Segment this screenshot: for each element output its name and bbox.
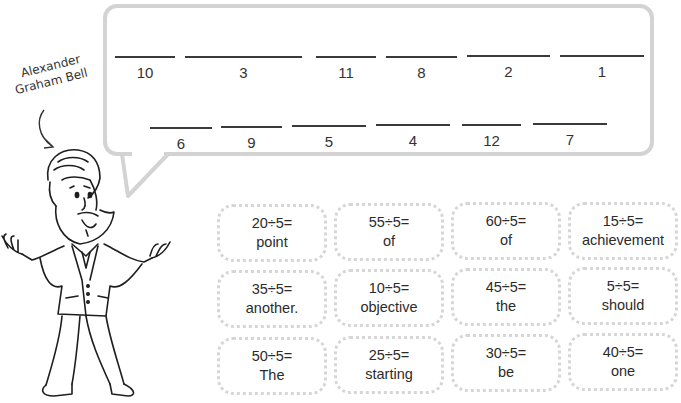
answer-blank[interactable]: 5: [292, 125, 366, 150]
card-equation: 40÷5=: [603, 343, 644, 362]
blank-number: 3: [185, 64, 302, 81]
equation-card[interactable]: 55÷5=of: [334, 203, 444, 261]
answer-blank[interactable]: 8: [386, 56, 457, 81]
card-word: achievement: [582, 231, 664, 250]
answer-blank[interactable]: 2: [467, 55, 550, 80]
blank-number: 12: [462, 132, 521, 149]
equation-card[interactable]: 15÷5=achievement: [568, 202, 678, 260]
blank-number: 2: [467, 63, 550, 80]
blank-number: 5: [292, 133, 366, 150]
alexander-graham-bell-illustration: [0, 140, 200, 403]
answer-blank[interactable]: 7: [533, 123, 607, 148]
card-word: point: [256, 233, 287, 252]
card-word: be: [498, 363, 514, 382]
card-equation: 15÷5=: [603, 212, 644, 231]
answer-blank[interactable]: 12: [462, 124, 521, 149]
card-equation: 25÷5=: [369, 346, 410, 365]
card-equation: 35÷5=: [252, 280, 293, 299]
card-word: of: [500, 231, 512, 250]
answer-blank[interactable]: 4: [376, 124, 450, 149]
blank-number: 4: [376, 132, 450, 149]
card-word: the: [496, 297, 516, 316]
answer-blank[interactable]: 9: [221, 126, 282, 151]
card-equation: 45÷5=: [486, 278, 527, 297]
blank-number: 11: [316, 64, 376, 81]
blank-number: 8: [386, 64, 457, 81]
card-word: The: [260, 366, 285, 385]
card-word: starting: [365, 365, 413, 384]
equation-card[interactable]: 45÷5=the: [451, 268, 561, 326]
equation-card[interactable]: 50÷5=The: [217, 337, 327, 395]
blank-number: 1: [560, 63, 644, 80]
character-name-label: Alexander Graham Bell: [6, 51, 89, 99]
card-equation: 30÷5=: [486, 344, 527, 363]
equation-card[interactable]: 60÷5=of: [451, 202, 561, 260]
blank-number: 10: [115, 64, 175, 81]
blank-number: 9: [221, 134, 282, 151]
card-word: should: [602, 296, 645, 315]
equation-card[interactable]: 35÷5=another.: [217, 270, 327, 328]
answer-blank[interactable]: 11: [316, 56, 376, 81]
card-equation: 10÷5=: [369, 279, 410, 298]
card-equation: 50÷5=: [252, 347, 293, 366]
equation-card[interactable]: 20÷5=point: [217, 204, 327, 262]
answer-blank[interactable]: 10: [115, 56, 175, 81]
blank-number: 7: [533, 131, 607, 148]
card-equation: 55÷5=: [369, 213, 410, 232]
card-word: one: [611, 362, 635, 381]
card-equation: 20÷5=: [252, 214, 293, 233]
equation-card[interactable]: 25÷5=starting: [334, 336, 444, 394]
answer-blank[interactable]: 1: [560, 55, 644, 80]
card-equation: 60÷5=: [486, 212, 527, 231]
card-word: objective: [360, 298, 417, 317]
equation-card[interactable]: 30÷5=be: [451, 334, 561, 392]
card-word: of: [383, 232, 395, 251]
card-word: another.: [246, 299, 298, 318]
equation-card[interactable]: 10÷5=objective: [334, 269, 444, 327]
card-equation: 5÷5=: [607, 277, 640, 296]
equation-card[interactable]: 5÷5=should: [568, 267, 678, 325]
answer-blank[interactable]: 3: [185, 56, 302, 81]
equation-card[interactable]: 40÷5=one: [568, 333, 678, 391]
